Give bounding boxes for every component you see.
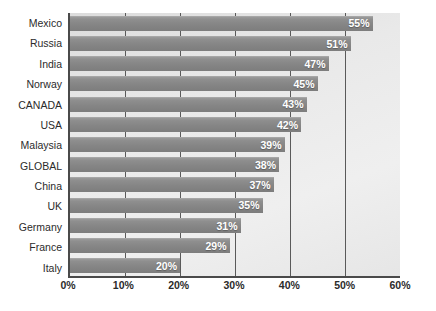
category-label: Malaysia bbox=[0, 135, 66, 155]
bar-value-label: 51% bbox=[326, 39, 350, 50]
category-label: France bbox=[0, 237, 66, 257]
value-tick-label: 50% bbox=[334, 280, 355, 291]
bar: 39% bbox=[70, 137, 285, 152]
category-label: USA bbox=[0, 115, 66, 135]
category-axis: MexicoRussiaIndiaNorwayCANADAUSAMalaysia… bbox=[0, 13, 66, 278]
bar-row: 43% bbox=[70, 94, 400, 114]
plot-area: 55%51%47%45%43%42%39%38%37%35%31%29%20% bbox=[68, 13, 400, 278]
value-axis: 0%10%20%30%40%50%60% bbox=[68, 280, 400, 298]
value-tick-label: 30% bbox=[223, 280, 244, 291]
bar: 55% bbox=[70, 16, 373, 31]
bar: 42% bbox=[70, 117, 301, 132]
bar-value-label: 37% bbox=[249, 180, 273, 191]
bar-row: 55% bbox=[70, 13, 400, 33]
chart-title bbox=[68, 0, 368, 3]
bar: 37% bbox=[70, 177, 274, 192]
bar-value-label: 31% bbox=[216, 221, 240, 232]
bar-row: 31% bbox=[70, 215, 400, 235]
bar: 51% bbox=[70, 36, 351, 51]
bar-value-label: 35% bbox=[238, 200, 262, 211]
value-tick-label: 60% bbox=[389, 280, 410, 291]
category-label: CANADA bbox=[0, 95, 66, 115]
bar: 47% bbox=[70, 56, 329, 71]
bar-value-label: 43% bbox=[282, 99, 306, 110]
bar-value-label: 38% bbox=[255, 160, 279, 171]
bar-value-label: 20% bbox=[156, 261, 180, 272]
bar: 43% bbox=[70, 97, 307, 112]
bar-value-label: 39% bbox=[260, 140, 284, 151]
category-label: GLOBAL bbox=[0, 156, 66, 176]
bar-row: 20% bbox=[70, 256, 400, 276]
bar-chart: MexicoRussiaIndiaNorwayCANADAUSAMalaysia… bbox=[0, 0, 436, 311]
bar-row: 47% bbox=[70, 53, 400, 73]
bar-row: 37% bbox=[70, 175, 400, 195]
bar-row: 45% bbox=[70, 74, 400, 94]
bar-value-label: 42% bbox=[277, 120, 301, 131]
bar-row: 51% bbox=[70, 33, 400, 53]
bar-value-label: 55% bbox=[348, 18, 372, 29]
bar: 31% bbox=[70, 218, 241, 233]
bar-row: 29% bbox=[70, 236, 400, 256]
value-tick-label: 40% bbox=[279, 280, 300, 291]
bar: 38% bbox=[70, 157, 279, 172]
bar-value-label: 47% bbox=[304, 59, 328, 70]
category-label: India bbox=[0, 54, 66, 74]
bar-value-label: 29% bbox=[205, 241, 229, 252]
category-label: Russia bbox=[0, 33, 66, 53]
bar-row: 38% bbox=[70, 155, 400, 175]
category-label: Mexico bbox=[0, 13, 66, 33]
bar: 45% bbox=[70, 76, 318, 91]
value-tick-label: 10% bbox=[113, 280, 134, 291]
category-label: Italy bbox=[0, 258, 66, 278]
bar-row: 39% bbox=[70, 134, 400, 154]
bar-series: 55%51%47%45%43%42%39%38%37%35%31%29%20% bbox=[70, 13, 400, 276]
category-label: China bbox=[0, 176, 66, 196]
bar: 35% bbox=[70, 198, 263, 213]
category-label: Norway bbox=[0, 74, 66, 94]
bar: 29% bbox=[70, 238, 230, 253]
value-tick-label: 20% bbox=[168, 280, 189, 291]
bar-row: 35% bbox=[70, 195, 400, 215]
value-tick-label: 0% bbox=[60, 280, 75, 291]
bar-row: 42% bbox=[70, 114, 400, 134]
category-label: Germany bbox=[0, 217, 66, 237]
bar: 20% bbox=[70, 258, 180, 273]
bar-value-label: 45% bbox=[293, 79, 317, 90]
category-label: UK bbox=[0, 197, 66, 217]
